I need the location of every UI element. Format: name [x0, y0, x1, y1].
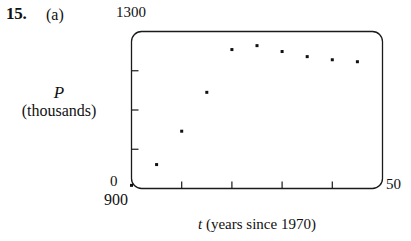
data-point [205, 91, 208, 94]
plot-frame [132, 32, 383, 189]
figure-container: 15. (a) P (thousands) 1300 0 900 50 t (y… [0, 0, 411, 241]
data-point [331, 58, 334, 61]
data-point [180, 130, 183, 133]
data-point [130, 184, 133, 187]
data-point [230, 48, 233, 51]
data-point [256, 44, 259, 47]
scatter-plot [0, 0, 411, 241]
data-point [155, 163, 158, 166]
data-point [306, 55, 309, 58]
plot-svg [0, 0, 411, 241]
data-point [281, 50, 284, 53]
data-point [356, 60, 359, 63]
